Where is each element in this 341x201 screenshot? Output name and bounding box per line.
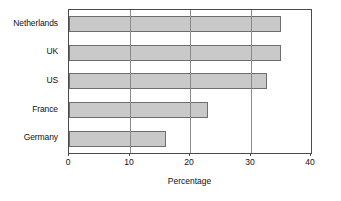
x-axis-tick-label-20: 20: [184, 157, 193, 167]
bar-netherlands: [69, 16, 281, 32]
bar-uk: [69, 45, 281, 61]
x-axis-ticks: 010203040: [68, 153, 311, 169]
y-axis-tick-netherlands: Netherlands: [0, 9, 63, 38]
x-axis-tick-mark-0: [68, 153, 69, 156]
y-axis-tick-label: Netherlands: [13, 19, 58, 28]
x-axis-tick-label-30: 30: [245, 157, 254, 167]
y-axis-tick-label: France: [32, 105, 58, 114]
bar-france: [69, 102, 208, 118]
bar-row: [69, 67, 311, 96]
y-axis-tick-label: UK: [46, 47, 58, 56]
bar-row: [69, 124, 311, 153]
x-axis-title: Percentage: [68, 176, 311, 186]
y-axis-tick-label: US: [46, 76, 58, 85]
bar-chart: Netherlands UK US France Germany: [0, 0, 341, 201]
bar-series: [69, 10, 311, 153]
y-axis-tick-uk: UK: [0, 38, 63, 67]
y-axis-category-labels: Netherlands UK US France Germany: [0, 9, 63, 152]
bar-row: [69, 96, 311, 125]
y-axis-tick-label: Germany: [24, 133, 58, 142]
plot-area: [68, 9, 312, 154]
x-axis-tick-mark-10: [129, 153, 130, 156]
y-axis-tick-france: France: [0, 95, 63, 124]
x-axis-tick-label-10: 10: [124, 157, 133, 167]
y-axis-tick-us: US: [0, 66, 63, 95]
x-axis-tick-label-40: 40: [305, 157, 314, 167]
bar-us: [69, 73, 267, 89]
bar-row: [69, 39, 311, 68]
bar-row: [69, 10, 311, 39]
x-axis-tick-mark-20: [189, 153, 190, 156]
bar-germany: [69, 131, 166, 147]
y-axis-tick-germany: Germany: [0, 123, 63, 152]
x-axis-tick-mark-30: [250, 153, 251, 156]
x-axis-tick-mark-40: [310, 153, 311, 156]
x-axis-tick-label-0: 0: [66, 157, 71, 167]
